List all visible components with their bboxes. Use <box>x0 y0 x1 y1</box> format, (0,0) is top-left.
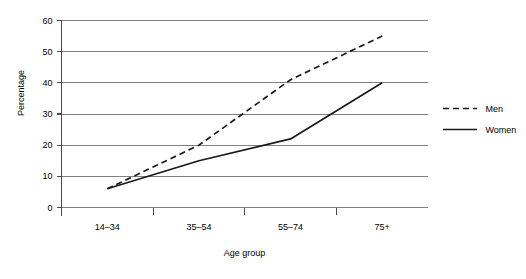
x-tick-label: 14–34 <box>72 222 142 232</box>
x-tick-label: 55–74 <box>256 222 326 232</box>
y-tick-label: 50 <box>19 47 53 57</box>
gridlines <box>62 21 429 208</box>
y-tick-label: 60 <box>19 16 53 26</box>
y-tick-label: 0 <box>19 203 53 213</box>
legend-item-men: Men <box>443 103 516 124</box>
line-chart: Percentage Age group 0102030405060 14–34… <box>0 0 526 279</box>
y-axis-label: Percentage <box>16 48 26 138</box>
series-lines <box>107 36 382 189</box>
y-tick-label: 20 <box>19 140 53 150</box>
dashed-line-key <box>443 104 477 113</box>
chart-legend: Men Women <box>443 103 516 145</box>
y-tick-marks <box>57 21 62 208</box>
legend-item-women: Women <box>443 124 516 145</box>
legend-label-women: Women <box>486 125 517 135</box>
x-tick-label: 35–54 <box>164 222 234 232</box>
x-axis-label: Age group <box>61 248 428 258</box>
y-tick-label: 10 <box>19 171 53 181</box>
y-tick-label: 30 <box>19 109 53 119</box>
y-tick-label: 40 <box>19 78 53 88</box>
x-tick-label: 75+ <box>347 222 417 232</box>
solid-line-key <box>443 125 477 134</box>
x-tick-marks <box>153 208 336 215</box>
legend-label-men: Men <box>486 104 504 114</box>
